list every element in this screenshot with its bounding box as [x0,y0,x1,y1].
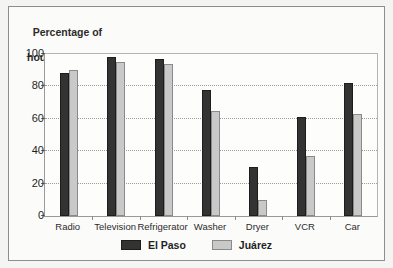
legend-label-el-paso: El Paso [148,239,186,251]
y-axis-tick-label: 80 [14,79,44,91]
bar-juarez [353,114,362,216]
plot-area [44,53,378,217]
legend-item-juarez: Juárez [212,239,272,251]
x-axis-label: Washer [194,221,226,232]
y-axis-tick-label: 40 [14,144,44,156]
chart-legend: El Paso Juárez [9,239,384,251]
bar-juarez [116,62,125,216]
bar-juarez [211,111,220,216]
bar-juarez [306,156,315,216]
bar-el-paso [155,59,164,216]
x-axis-label: Radio [55,221,80,232]
bar-juarez [69,70,78,216]
x-axis-tick [140,216,141,220]
bar-group [202,54,220,216]
y-axis-tick-label: 20 [14,177,44,189]
legend-swatch-el-paso [121,240,141,250]
x-axis-tick [282,216,283,220]
x-axis-label: Car [345,221,360,232]
legend-swatch-juarez [212,240,232,250]
x-axis-label: Dryer [246,221,269,232]
bar-el-paso [60,73,69,216]
chart-title-line-1: Percentage of [33,26,102,38]
bar-el-paso [344,83,353,216]
bar-group [155,54,173,216]
chart-figure: Percentage of households El Paso Juárez … [8,6,385,261]
x-axis-tick [92,216,93,220]
bar-group [249,54,267,216]
bar-group [60,54,78,216]
y-axis-tick-label: 60 [14,112,44,124]
x-axis-tick [235,216,236,220]
bar-el-paso [202,90,211,216]
x-axis-label: VCR [295,221,315,232]
bar-juarez [258,200,267,216]
x-axis-tick [187,216,188,220]
bar-group [297,54,315,216]
bar-el-paso [107,57,116,216]
x-axis-label: Refrigerator [137,221,187,232]
y-axis-tick-label: 100 [14,47,44,59]
x-axis-tick [330,216,331,220]
y-axis-tick-label: 0 [14,209,44,221]
legend-label-juarez: Juárez [239,239,272,251]
bar-el-paso [297,117,306,216]
bar-group [344,54,362,216]
legend-item-el-paso: El Paso [121,239,186,251]
x-axis-label: Television [94,221,136,232]
bar-juarez [164,64,173,216]
bar-group [107,54,125,216]
bar-el-paso [249,167,258,216]
